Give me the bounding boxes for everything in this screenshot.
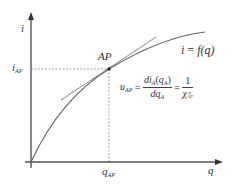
curve-label: i = f(q) bbox=[181, 44, 214, 56]
y-tick-sub: AP bbox=[15, 68, 22, 74]
x-axis-arrow-icon bbox=[215, 159, 223, 165]
y-tick-label: iAP bbox=[12, 62, 22, 74]
num-paren-close: ) bbox=[167, 74, 170, 85]
y-axis-label: i bbox=[21, 23, 24, 34]
den-q-sub: A bbox=[161, 94, 165, 100]
formula-lhs-sub: AP bbox=[125, 87, 132, 93]
formula-reciprocal-denominator: χψAP bbox=[182, 88, 193, 99]
formula-eq2: = bbox=[174, 82, 180, 93]
formula-lhs: uAP bbox=[120, 81, 132, 92]
rhs-den-sub: AP bbox=[187, 95, 193, 99]
formula-derivative: diA(qA) dqA bbox=[143, 75, 172, 100]
formula-derivative-numerator: diA(qA) bbox=[143, 75, 172, 88]
formula-derivative-denominator: dqA bbox=[143, 88, 172, 100]
operating-point-diagram: i q iAP qAP AP i = f(q) uAP = diA(qA) dq… bbox=[0, 0, 234, 186]
curve-label-arg: (q) bbox=[200, 43, 214, 57]
curve-label-eq: = bbox=[187, 43, 194, 57]
x-tick-sub: AP bbox=[108, 172, 115, 178]
formula-reciprocal: 1 χψAP bbox=[182, 76, 193, 99]
formula-reciprocal-numerator: 1 bbox=[182, 76, 193, 88]
operating-point-marker bbox=[107, 67, 111, 71]
curve-label-lhs: i bbox=[181, 43, 184, 57]
x-axis-label: q bbox=[208, 165, 214, 176]
operating-point-label: AP bbox=[98, 51, 111, 62]
diagram-graphics bbox=[0, 0, 234, 186]
formula-eq1: = bbox=[135, 82, 141, 93]
x-tick-label: qAP bbox=[102, 166, 115, 178]
y-axis-arrow-icon bbox=[28, 12, 34, 20]
formula: uAP = diA(qA) dqA = 1 χψAP bbox=[120, 75, 193, 100]
